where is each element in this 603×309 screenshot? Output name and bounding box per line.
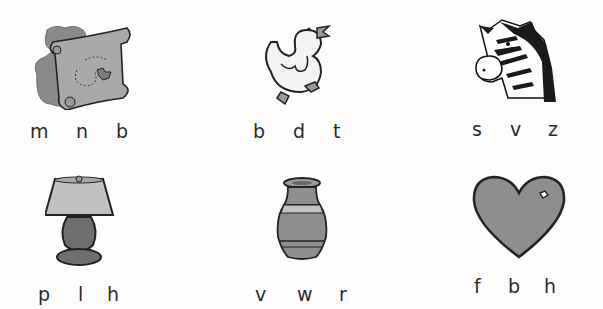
letter-choice[interactable]: b bbox=[253, 120, 265, 142]
letter-choice[interactable]: l bbox=[78, 283, 83, 305]
zebra-icon bbox=[472, 18, 557, 103]
item-heart: f b h bbox=[402, 155, 603, 309]
letter-choice[interactable]: z bbox=[548, 118, 558, 140]
letter-choice[interactable]: m bbox=[30, 120, 49, 142]
letter-choice[interactable]: h bbox=[107, 283, 119, 305]
letter-choice[interactable]: r bbox=[339, 283, 347, 305]
letter-choice[interactable]: w bbox=[297, 283, 313, 305]
treasure-map-icon bbox=[25, 20, 135, 110]
letter-choice[interactable]: h bbox=[544, 275, 556, 297]
item-vase: v w r bbox=[201, 155, 402, 309]
letter-choice[interactable]: s bbox=[472, 118, 482, 140]
item-treasure-map: m n b bbox=[0, 0, 201, 154]
letter-choice[interactable]: b bbox=[116, 120, 128, 142]
letter-choice[interactable]: v bbox=[255, 283, 266, 305]
item-duck: b d t bbox=[201, 0, 402, 154]
letter-choice[interactable]: t bbox=[333, 120, 340, 142]
letter-choice[interactable]: f bbox=[474, 275, 481, 297]
letter-choice[interactable]: b bbox=[508, 275, 520, 297]
vase-icon bbox=[274, 177, 330, 263]
letter-choice[interactable]: v bbox=[510, 118, 521, 140]
lamp-icon bbox=[45, 175, 115, 275]
heart-icon bbox=[472, 175, 566, 261]
letter-choice[interactable]: d bbox=[293, 120, 305, 142]
letter-choice[interactable]: n bbox=[76, 120, 88, 142]
item-zebra: s v z bbox=[402, 0, 603, 154]
item-lamp: p l h bbox=[0, 155, 201, 309]
letter-choice[interactable]: p bbox=[38, 283, 50, 305]
duck-icon bbox=[259, 20, 339, 105]
